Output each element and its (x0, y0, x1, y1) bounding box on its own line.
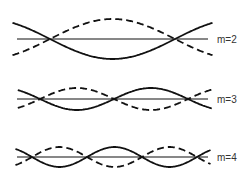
mode-label: m=3 (217, 94, 237, 105)
standing-wave-diagram: m=2m=3m=4 (0, 0, 249, 187)
mode-4: m=4 (16, 147, 238, 167)
mode-label: m=4 (217, 152, 237, 163)
solid-wave (13, 23, 213, 59)
mode-label: m=2 (217, 34, 237, 45)
mode-2: m=2 (13, 19, 238, 59)
mode-3: m=3 (17, 88, 237, 110)
dashed-wave (13, 19, 213, 55)
